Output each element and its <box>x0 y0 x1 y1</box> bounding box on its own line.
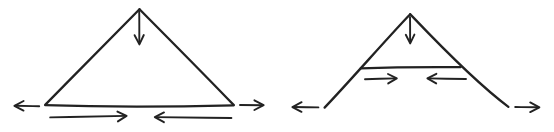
tie-tension-left-shaft <box>429 78 466 79</box>
tie-beam-line <box>361 67 461 68</box>
force-diagram-canvas <box>0 0 554 132</box>
tie-tension-right-shaft <box>365 78 396 79</box>
base-tie-left-shaft <box>156 117 231 118</box>
